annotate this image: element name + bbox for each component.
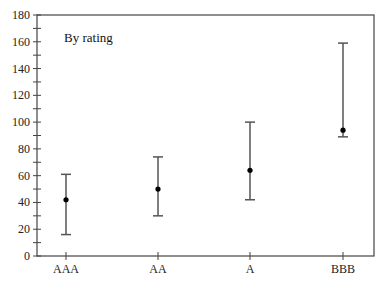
error-bars [61, 43, 348, 234]
y-tick-label: 40 [18, 195, 30, 209]
chart-annotation: By rating [64, 30, 113, 45]
y-tick-label: 20 [18, 222, 30, 236]
x-tick-label-bbb: BBB [331, 262, 355, 276]
y-tick-label: 60 [18, 169, 30, 183]
error-bar-aa [153, 157, 163, 216]
x-tick-label-aaa: AAA [53, 262, 79, 276]
mid-point [63, 197, 68, 202]
error-bar-aaa [61, 174, 71, 234]
x-tick-label-aa: AA [149, 262, 167, 276]
mid-point [340, 128, 345, 133]
y-tick-label: 180 [12, 8, 30, 22]
y-tick-label: 140 [12, 62, 30, 76]
error-bar-a [245, 122, 255, 200]
y-tick-label: 100 [12, 115, 30, 129]
mid-point [247, 168, 252, 173]
mid-point [155, 186, 160, 191]
y-tick-label: 160 [12, 35, 30, 49]
plot-border [37, 15, 374, 256]
y-tick-label: 0 [24, 249, 30, 263]
error-bar-chart: 020406080100120140160180 AAAAAABBB By ra… [0, 0, 387, 282]
y-tick-label: 120 [12, 88, 30, 102]
plot-frame [37, 15, 374, 256]
x-tick-label-a: A [246, 262, 255, 276]
y-tick-label: 80 [18, 142, 30, 156]
error-bar-bbb [338, 43, 348, 137]
